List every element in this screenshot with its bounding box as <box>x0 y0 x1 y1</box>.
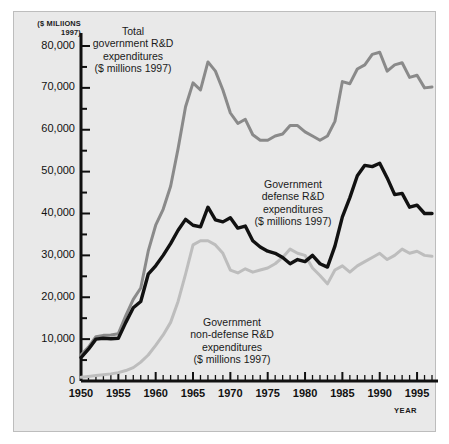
y-tick-label: 20,000 <box>13 290 75 302</box>
y-tick-label: 0 <box>13 374 75 386</box>
y-tick-label: 40,000 <box>13 206 75 218</box>
x-tick-label: 1995 <box>394 387 440 399</box>
y-tick-label: 80,000 <box>13 39 75 51</box>
axis-lines <box>81 33 438 381</box>
y-tick-label: 10,000 <box>13 332 75 344</box>
tick-marks <box>81 46 432 381</box>
y-tick-label: 60,000 <box>13 122 75 134</box>
y-tick-label: 50,000 <box>13 164 75 176</box>
y-tick-label: 30,000 <box>13 248 75 260</box>
chart-figure: ($ MILlIONS 1997) YEAR Total government … <box>0 0 449 444</box>
data-series-group <box>81 52 432 377</box>
y-tick-label: 70,000 <box>13 80 75 92</box>
series-line-defense <box>81 163 432 357</box>
